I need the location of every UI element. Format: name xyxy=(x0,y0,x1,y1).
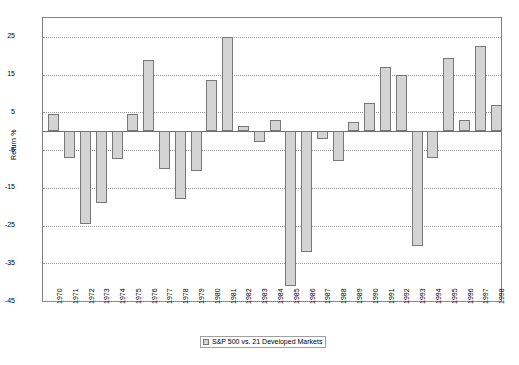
y-tick-label: -15 xyxy=(0,183,15,190)
bar-1976 xyxy=(143,60,154,132)
x-tick-label: 1992 xyxy=(403,288,410,304)
x-tick-label: 1985 xyxy=(293,288,300,304)
bar-1994 xyxy=(427,131,438,157)
bar-1988 xyxy=(333,131,344,161)
x-tick-label: 1998 xyxy=(498,288,505,304)
bar-1978 xyxy=(175,131,186,199)
bar-1981 xyxy=(222,37,233,131)
legend-swatch-icon xyxy=(203,339,209,345)
x-tick-label: 1983 xyxy=(261,288,268,304)
x-tick-label: 1996 xyxy=(467,288,474,304)
x-tick-label: 1995 xyxy=(451,288,458,304)
x-tick-label: 1981 xyxy=(230,288,237,304)
x-tick-label: 1994 xyxy=(435,288,442,304)
x-tick-label: 1988 xyxy=(340,288,347,304)
x-tick-label: 1971 xyxy=(72,288,79,304)
bar-1992 xyxy=(396,75,407,132)
bar-1970 xyxy=(48,114,59,131)
bar-1977 xyxy=(159,131,170,169)
bar-1974 xyxy=(112,131,123,159)
bar-1998 xyxy=(491,105,502,131)
bar-1987 xyxy=(317,131,328,139)
plot-area xyxy=(42,17,502,302)
x-tick-label: 1982 xyxy=(245,288,252,304)
bar-1982 xyxy=(238,126,249,132)
bar-1979 xyxy=(191,131,202,171)
bar-1997 xyxy=(475,46,486,131)
y-tick-label: -25 xyxy=(0,221,15,228)
x-tick-label: 1972 xyxy=(88,288,95,304)
y-tick-label: 25 xyxy=(0,32,15,39)
bar-1985 xyxy=(285,131,296,286)
x-tick-label: 1980 xyxy=(214,288,221,304)
x-tick-label: 1970 xyxy=(56,288,63,304)
x-tick-label: 1977 xyxy=(166,288,173,304)
bar-1972 xyxy=(80,131,91,223)
x-tick-label: 1975 xyxy=(135,288,142,304)
x-tick-label: 1976 xyxy=(151,288,158,304)
bar-1989 xyxy=(348,122,359,131)
y-tick-label: -35 xyxy=(0,259,15,266)
chart-page: Return % 25155-5-15-25-35-45 19701971197… xyxy=(0,0,519,365)
y-tick-label: 15 xyxy=(0,70,15,77)
x-tick-label: 1993 xyxy=(419,288,426,304)
y-tick-label: 5 xyxy=(0,108,15,115)
x-tick-label: 1986 xyxy=(309,288,316,304)
bar-1991 xyxy=(380,67,391,131)
bar-1993 xyxy=(412,131,423,246)
y-axis-title: Return % xyxy=(10,129,17,160)
bar-1984 xyxy=(270,120,281,131)
bar-1973 xyxy=(96,131,107,203)
bar-1971 xyxy=(64,131,75,157)
bar-1975 xyxy=(127,114,138,131)
bar-1983 xyxy=(254,131,265,142)
x-tick-label: 1990 xyxy=(372,288,379,304)
legend-label: S&P 500 vs. 21 Developed Markets xyxy=(212,338,322,346)
x-tick-label: 1973 xyxy=(103,288,110,304)
x-tick-label: 1974 xyxy=(119,288,126,304)
chart-legend: S&P 500 vs. 21 Developed Markets xyxy=(200,336,326,348)
x-tick-label: 1984 xyxy=(277,288,284,304)
x-tick-label: 1997 xyxy=(482,288,489,304)
x-tick-label: 1978 xyxy=(182,288,189,304)
x-tick-label: 1979 xyxy=(198,288,205,304)
x-tick-label: 1991 xyxy=(388,288,395,304)
bar-1996 xyxy=(459,120,470,131)
bar-1990 xyxy=(364,103,375,131)
bar-series xyxy=(43,18,501,301)
bar-1986 xyxy=(301,131,312,252)
gridline--45 xyxy=(43,301,501,302)
x-tick-label: 1987 xyxy=(324,288,331,304)
x-tick-label: 1989 xyxy=(356,288,363,304)
bar-1995 xyxy=(443,58,454,132)
y-tick-label: -45 xyxy=(0,297,15,304)
bar-1980 xyxy=(206,80,217,131)
